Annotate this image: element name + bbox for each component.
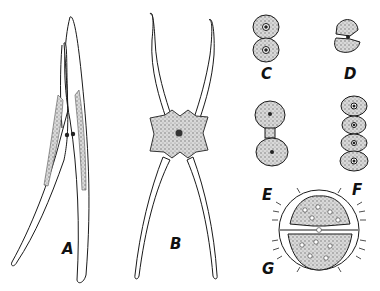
label-f: F [352, 183, 362, 198]
cell-c-drawing [253, 15, 279, 62]
label-a: A [62, 242, 74, 257]
label-c: C [261, 67, 272, 82]
cell-a-drawing [11, 17, 89, 283]
cell-g-drawing [272, 188, 366, 272]
cell-d-drawing [335, 20, 360, 53]
label-d: D [344, 67, 356, 82]
cell-f-drawing [340, 96, 368, 171]
label-e: E [262, 188, 272, 203]
label-g: G [262, 262, 274, 277]
illustration-canvas [0, 0, 380, 291]
figure-plate: A B C D E F G [0, 0, 380, 291]
label-b: B [170, 237, 181, 252]
cell-e-drawing [255, 101, 288, 166]
